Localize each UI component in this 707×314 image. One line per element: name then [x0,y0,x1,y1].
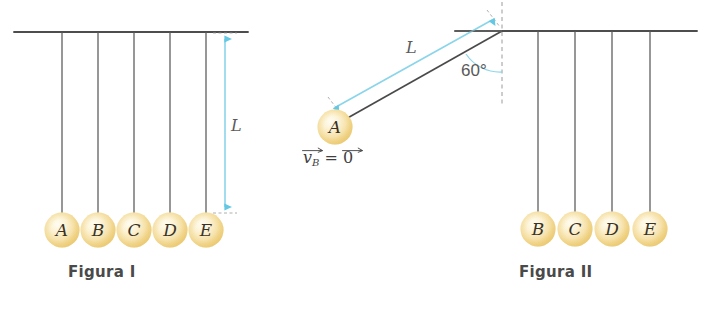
velocity-value-zero: 0 [343,148,353,167]
ball-e-figura-i: E [189,213,224,248]
ball-d-figura-i: D [153,213,188,248]
ball-b-figura-i: B [81,213,116,248]
string-group-figura-i [62,32,206,219]
velocity-subscript-b: B [312,157,319,168]
ball-label-c: C [127,220,140,240]
ball-label-a: A [54,220,68,240]
ball-label-e2: E [643,219,657,239]
ball-label-a2: A [327,117,341,137]
ball-label-e: E [199,220,213,240]
velocity-symbol-v: v [303,148,312,167]
angle-label-60: 60° [461,61,487,80]
ball-b-figura-ii: B [521,212,556,247]
ball-a-figura-i: A [45,213,80,248]
velocity-vector-symbol: v [303,148,312,167]
caption-figura-i: Figura I [68,263,136,281]
velocity-equals-sign: = [325,148,338,167]
velocity-zero-vector: 0 [343,148,353,167]
string-group-figura-ii [538,31,650,218]
physics-diagram-root: A B C D E [0,0,707,314]
ball-a-figura-ii: A [318,110,353,145]
length-dimension-figura-i: L [213,33,242,213]
figura-i-group: A B C D E [14,32,248,248]
ball-label-d: D [162,220,177,240]
ball-label-d2: D [604,219,619,239]
ball-c-figura-ii: C [558,212,593,247]
dimension-label-l2: L [405,38,417,57]
dimension-tick-pivot [487,10,500,27]
velocity-annotation: vB = 0 [303,148,353,168]
ball-d-figura-ii: D [595,212,630,247]
ball-label-b: B [91,220,105,240]
ball-label-c2: C [568,219,581,239]
ball-c-figura-i: C [117,213,152,248]
ball-e-figura-ii: E [633,212,668,247]
caption-figura-ii: Figura II [519,263,592,281]
dimension-label-l: L [230,116,242,135]
ball-label-b2: B [531,219,545,239]
figura-ii-group: 60° L A [318,2,698,247]
